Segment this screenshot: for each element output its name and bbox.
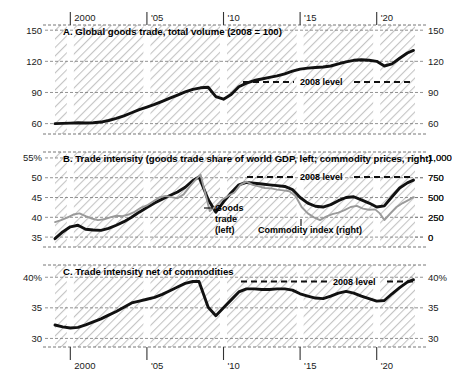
y-axis-label-left: 90 (31, 87, 42, 98)
panel-B: 35040250455005075055%1,00002505007501,00… (23, 152, 452, 247)
reference-line-label: 2008 level (300, 77, 343, 87)
y-axis-label-right: 40% (428, 272, 448, 283)
panels-root: 60609090120120150150A. Global goods trad… (23, 12, 452, 371)
y-axis-label-left: 35 (31, 232, 42, 243)
x-axis-tick-label: '15 (304, 360, 316, 371)
annotation-goods-trade: Goods (215, 203, 244, 213)
y-axis-label-left: 40% (23, 272, 43, 283)
y-axis-label-right: 150 (428, 25, 444, 36)
y-axis-label-left: 55% (23, 152, 43, 163)
y-axis-label-right: 35 (428, 302, 439, 313)
reference-line-label: 2008 level (333, 277, 376, 287)
gridband (373, 152, 380, 247)
y-axis-label-left: 120 (26, 56, 42, 67)
trade-chart-figure: 60609090120120150150A. Global goods trad… (0, 0, 454, 383)
x-axis-tick-label: 2000 (74, 12, 95, 23)
gridband (67, 25, 74, 134)
gridband (373, 25, 380, 134)
y-axis-label-right: 120 (428, 56, 444, 67)
panel-title-C: C. Trade intensity net of commodities (63, 266, 234, 277)
x-axis-tick-label: '15 (304, 12, 316, 23)
x-axis-tick-label: 2000 (74, 360, 95, 371)
y-axis-label-left: 50 (31, 172, 42, 183)
y-axis-label-right: 750 (428, 172, 444, 183)
x-axis-tick-label: '10 (228, 12, 240, 23)
y-axis-label-left: 60 (31, 118, 42, 129)
y-axis-label-left: 45 (31, 192, 42, 203)
annotation-commodity-index: Commodity index (right) (258, 225, 362, 235)
y-axis-label-left: 30 (31, 333, 42, 344)
annotation-goods-trade: (left) (215, 225, 235, 235)
reference-line-label: 2008 level (300, 172, 343, 182)
y-axis-label-left: 35 (31, 302, 42, 313)
panel-C: 3030353540%40%C. Trade intensity net of … (23, 265, 448, 347)
x-axis-tick-label: '20 (381, 360, 393, 371)
panel-title-B: B. Trade intensity (goods trade share of… (63, 153, 432, 164)
y-axis-label-right: 500 (428, 192, 444, 203)
y-axis-label-right: 0 (428, 232, 433, 243)
x-axis-tick-label: '20 (381, 12, 393, 23)
y-axis-label-right: 30 (428, 333, 439, 344)
annotation-goods-trade: trade (215, 214, 237, 224)
gridband (143, 152, 150, 247)
y-axis-label-right: 90 (428, 87, 439, 98)
panel-title-A: A. Global goods trade, total volume (200… (63, 26, 282, 37)
panel-A: 60609090120120150150A. Global goods trad… (26, 25, 444, 134)
gridband (67, 152, 74, 247)
y-axis-label-left: 40 (31, 212, 42, 223)
x-axis-tick-label: '05 (151, 360, 163, 371)
y-axis-label-left: 150 (26, 25, 42, 36)
y-axis-label-right: 250 (428, 212, 444, 223)
y-axis-label-right: 60 (428, 118, 439, 129)
panel-background (55, 25, 415, 134)
gridband (143, 25, 150, 134)
x-axis-tick-label: '10 (228, 360, 240, 371)
gridband (220, 25, 227, 134)
chart-canvas: 60609090120120150150A. Global goods trad… (0, 0, 454, 383)
x-axis-tick-label: '05 (151, 12, 163, 23)
